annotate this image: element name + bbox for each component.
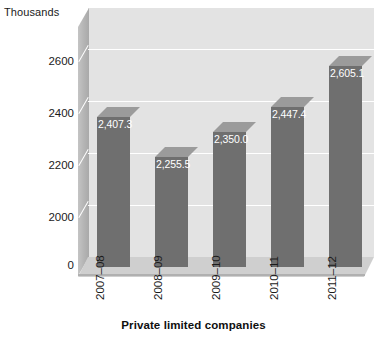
bar-top-face: [271, 97, 314, 107]
bar-value-label: 2,407.3: [98, 118, 140, 130]
bar-front-face: [213, 132, 246, 267]
plot-floor-edge: [78, 274, 365, 276]
x-axis-title: Private limited companies: [0, 319, 387, 331]
bar-top-face: [155, 147, 198, 157]
bar-top-face: [213, 122, 256, 132]
bar-top-face: [97, 107, 140, 117]
y-tick-2000: 2000: [18, 211, 74, 223]
bar-front-face: [155, 157, 188, 267]
bar-2008-09[interactable]: 2,255.5: [155, 147, 198, 267]
plot-area: 2,407.3 2,255.5 2,350.0 2,447.4 2,605.1: [78, 8, 374, 276]
bar-value-label: 2,447.4: [272, 108, 314, 120]
bar-front-face: [271, 107, 304, 267]
bar-2007-08[interactable]: 2,407.3: [97, 107, 140, 267]
bar-top-face: [329, 56, 372, 66]
bar-value-label: 2,605.1: [330, 67, 372, 79]
gridline-diagonal-2000: [78, 201, 89, 221]
y-tick-0: 0: [18, 259, 74, 271]
y-axis-ticks: 2600 2400 2200 2000 0: [12, 0, 74, 338]
bar-2011-12[interactable]: 2,605.1: [329, 56, 372, 267]
bar-2010-11[interactable]: 2,447.4: [271, 97, 314, 267]
bar-2009-10[interactable]: 2,350.0: [213, 122, 256, 267]
gridline-diagonal-2600: [78, 45, 89, 65]
bar-chart: Thousands 2,407.3 2,255.5: [0, 0, 387, 338]
y-tick-2400: 2400: [18, 107, 74, 119]
gridline-diagonal-2200: [78, 149, 89, 169]
bar-value-label: 2,350.0: [214, 133, 256, 145]
gridline-diagonal-2400: [78, 97, 89, 117]
bar-value-label: 2,255.5: [156, 158, 198, 170]
bar-front-face: [329, 66, 362, 267]
bar-front-face: [97, 117, 130, 267]
y-tick-2600: 2600: [18, 55, 74, 67]
y-tick-2200: 2200: [18, 159, 74, 171]
gridline-2600: [88, 49, 374, 50]
